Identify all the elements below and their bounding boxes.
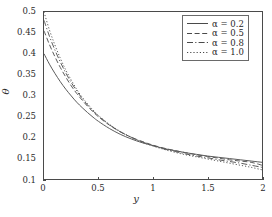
y-axis-tick-label: 0.3	[0, 91, 36, 100]
legend-line-swatch	[186, 48, 209, 57]
y-axis-tick-mark	[43, 180, 46, 181]
x-axis-tick-mark	[43, 177, 44, 180]
legend-entry: α = 1.0	[186, 48, 244, 58]
figure-canvas: θ 0.10.150.20.250.30.350.40.450.5 00.511…	[0, 0, 272, 217]
y-axis-tick-label: 0.2	[0, 133, 36, 142]
y-axis-tick-label: 0.45	[0, 28, 36, 37]
x-axis-tick-label: 0	[23, 184, 63, 193]
x-axis-tick-mark	[263, 177, 264, 180]
legend-line-swatch	[186, 38, 209, 47]
clipped-caption	[0, 206, 272, 217]
legend-box: α = 0.2α = 0.5α = 0.8α = 1.0	[182, 15, 249, 61]
x-axis-tick-mark	[208, 177, 209, 180]
legend-entry-label: α = 1.0	[212, 48, 244, 57]
legend-entry-label: α = 0.2	[212, 20, 244, 29]
legend-line-swatch	[186, 19, 209, 28]
y-axis-tick-label: 0.35	[0, 70, 36, 79]
legend-entry-label: α = 0.8	[212, 39, 244, 48]
x-axis-tick-label: 1	[133, 184, 173, 193]
legend-entry: α = 0.5	[186, 29, 244, 39]
x-axis-title: y	[0, 193, 272, 204]
y-axis-tick-label: 0.1	[0, 176, 36, 185]
y-axis-tick-label: 0.4	[0, 49, 36, 58]
legend-line-swatch	[186, 29, 209, 38]
y-axis-tick-label: 0.5	[0, 7, 36, 16]
legend-entry-label: α = 0.5	[212, 29, 244, 38]
x-axis-tick-label: 1.5	[188, 184, 228, 193]
y-axis-tick-label: 0.15	[0, 154, 36, 163]
y-axis-tick-label: 0.25	[0, 112, 36, 121]
x-axis-tick-label: 0.5	[78, 184, 118, 193]
x-axis-tick-mark	[153, 177, 154, 180]
x-axis-tick-mark	[98, 177, 99, 180]
x-axis-tick-label: 2	[243, 184, 272, 193]
